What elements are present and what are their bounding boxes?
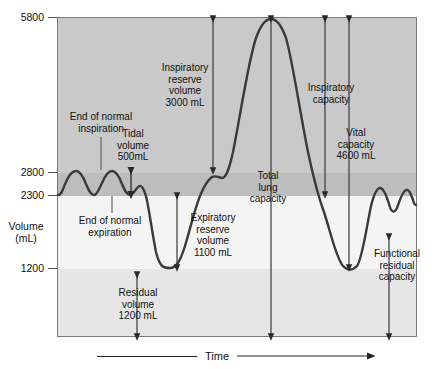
x-axis-line-left — [97, 356, 197, 357]
annotation-inspiratory-reserve-volume: Inspiratory reserve volume 3000 mL — [156, 62, 214, 108]
annotation-inspiratory-capacity: Inspiratory capacity — [300, 82, 362, 105]
curve-and-arrows-overlay — [0, 0, 443, 369]
x-axis: Time — [57, 346, 417, 366]
annotation-tidal-volume: Tidal volume 500mL — [105, 128, 161, 163]
annotation-residual-volume: Residual volume 1200 mL — [108, 287, 168, 322]
x-axis-line-right — [237, 350, 377, 362]
annotation-expiratory-reserve-volume: Expiratory reserve volume 1100 mL — [184, 212, 242, 258]
x-axis-title: Time — [197, 350, 237, 362]
annotation-end-of-normal-expiration: End of normal expiration — [53, 215, 167, 238]
spirogram-figure: 5800 2800 2300 1200 Volume (mL) — [0, 0, 443, 369]
annotation-functional-residual-capacity: Functional residual capacity — [362, 248, 432, 283]
annotation-vital-capacity: Vital capacity 4600 mL — [327, 127, 385, 162]
annotation-total-lung-capacity: Total lung capacity — [241, 170, 295, 205]
